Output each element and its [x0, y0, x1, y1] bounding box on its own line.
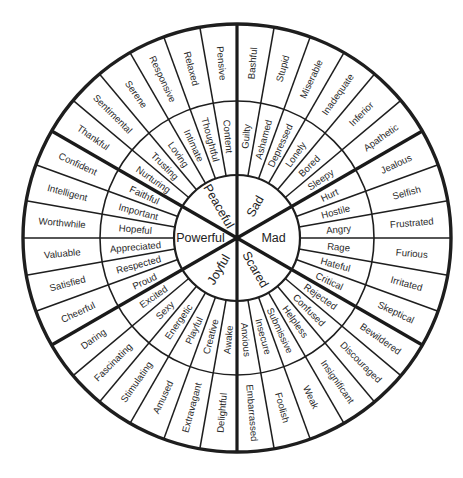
middle-emotion-label: Anxious: [239, 322, 253, 357]
outer-emotion-label: Extravagant: [180, 381, 204, 434]
outer-emotion-label: Serene: [123, 78, 150, 110]
outer-emotion-label: Amused: [150, 379, 175, 416]
outer-emotion-label: Worthwhile: [38, 215, 86, 230]
outer-emotion-label: Inferior: [347, 99, 376, 128]
outer-emotion-label: Foolish: [273, 391, 292, 424]
feelings-wheel: SadGuiltyBashfulAshamedStupidDepressedMi…: [0, 0, 463, 478]
middle-emotion-label: Awake: [221, 325, 234, 354]
outer-emotion-label: Relaxed: [182, 50, 202, 87]
core-emotion-sad: Sad: [244, 193, 267, 219]
outer-emotion-label: Stimulating: [118, 359, 154, 404]
core-emotion-mad: Mad: [261, 231, 285, 245]
outer-emotion-label: Satisfied: [48, 273, 86, 293]
outer-emotion-label: Irritated: [389, 274, 423, 293]
middle-emotion-label: Guilty: [239, 123, 252, 149]
middle-emotion-label: Angry: [326, 223, 352, 236]
outer-emotion-label: Stupid: [274, 54, 292, 83]
outer-emotion-label: Discouraged: [338, 339, 384, 385]
outer-emotion-label: Delightful: [214, 392, 228, 433]
center-hub: [234, 235, 240, 241]
outer-emotion-label: Frustrated: [390, 215, 435, 230]
outer-emotion-label: Weak: [301, 384, 321, 411]
middle-emotion-label: Hopeful: [118, 222, 152, 236]
middle-emotion-label: Content: [221, 119, 235, 154]
outer-emotion-label: Bewildered: [358, 321, 403, 357]
outer-emotion-label: Inadequate: [319, 71, 356, 117]
outer-emotion-label: Furious: [395, 246, 428, 260]
outer-emotion-label: Valuable: [43, 246, 80, 260]
outer-emotion-label: Embarrassed: [244, 384, 260, 442]
outer-emotion-label: Sentimental: [91, 92, 135, 136]
middle-emotion-label: Respected: [115, 253, 162, 275]
feelings-wheel-diagram: SadGuiltyBashfulAshamedStupidDepressedMi…: [0, 0, 463, 478]
outer-emotion-label: Pensive: [215, 46, 229, 81]
outer-emotion-label: Bashful: [245, 47, 259, 80]
outer-emotion-label: Selfish: [391, 184, 422, 202]
middle-emotion-label: Rage: [327, 240, 351, 253]
core-emotion-peaceful: Peaceful: [201, 182, 237, 231]
core-emotion-joyful: Joyful: [205, 252, 233, 287]
outer-emotion-label: Jealous: [379, 152, 414, 176]
outer-emotion-label: Fascinating: [92, 341, 134, 383]
core-emotion-powerful: Powerful: [176, 231, 225, 245]
outer-emotion-label: Daring: [79, 326, 108, 351]
outer-emotion-label: Insignificant: [319, 358, 357, 406]
outer-emotion-label: Intelligent: [46, 182, 89, 203]
outer-emotion-label: Responsive: [147, 54, 178, 104]
